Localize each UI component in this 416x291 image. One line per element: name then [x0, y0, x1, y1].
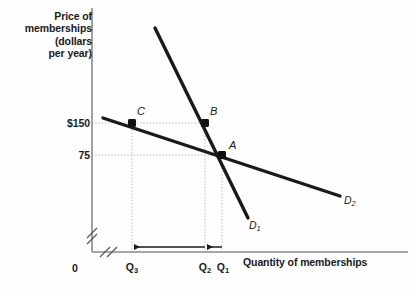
demand-curve-chart: Price of memberships (dollars per year) …	[0, 0, 416, 291]
curve-label-d1: D1	[249, 219, 261, 232]
y-axis-title: Price of memberships (dollars per year)	[8, 10, 92, 60]
q1-subscript: 1	[225, 266, 229, 275]
d1-subscript: 1	[257, 224, 261, 233]
point-label-c: C	[137, 105, 145, 118]
point-marker-a	[218, 151, 226, 159]
y-tick-label-75: 75	[44, 149, 90, 161]
q3-letter: Q	[126, 261, 134, 273]
demand-curves	[103, 28, 340, 218]
d2-letter: D	[344, 194, 352, 206]
y-tick-label-150: $150	[44, 117, 90, 129]
point-label-a: A	[229, 139, 236, 152]
d1-letter: D	[249, 219, 257, 231]
q1-letter: Q	[217, 261, 225, 273]
origin-label: 0	[72, 262, 78, 274]
q3-subscript: 3	[134, 266, 138, 275]
x-tick-label-q1: Q1	[211, 261, 235, 274]
curve-label-d2: D2	[344, 194, 356, 207]
point-label-b: B	[210, 105, 217, 118]
guide-lines	[92, 123, 222, 252]
x-tick-label-q3: Q3	[120, 261, 144, 274]
point-marker-b	[201, 119, 209, 127]
q2-letter: Q	[199, 261, 207, 273]
d2-subscript: 2	[352, 199, 356, 208]
point-marker-c	[128, 119, 136, 127]
x-axis-title: Quantity of memberships	[243, 256, 367, 268]
